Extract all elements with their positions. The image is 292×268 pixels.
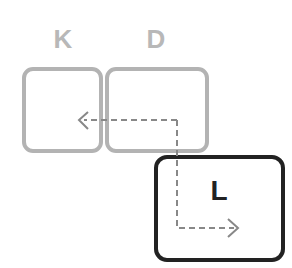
movement-arrows [0, 0, 292, 268]
